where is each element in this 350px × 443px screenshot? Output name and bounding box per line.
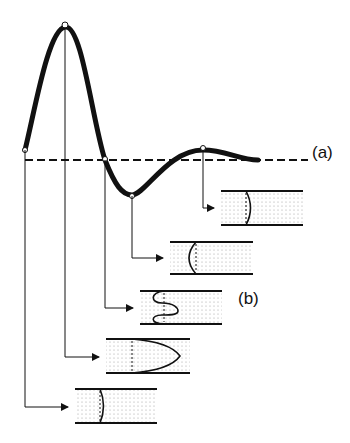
leader-arrow-zero-crossing bbox=[105, 160, 133, 308]
tube-3 bbox=[140, 291, 222, 324]
leader-arrow-start bbox=[25, 150, 68, 407]
oscillation-curve bbox=[25, 27, 258, 195]
tube-5 bbox=[75, 389, 157, 423]
leader-arrow-hump bbox=[203, 150, 214, 208]
hump-point-marker bbox=[201, 146, 206, 151]
tubes-label: (b) bbox=[238, 289, 259, 309]
tube-1 bbox=[221, 191, 303, 225]
leader-arrow-trough bbox=[132, 196, 163, 258]
curve-label: (a) bbox=[312, 143, 333, 163]
tube-2 bbox=[170, 242, 253, 274]
diagram-canvas bbox=[0, 0, 350, 443]
leader-arrow-peak bbox=[65, 27, 99, 357]
tube-4 bbox=[106, 339, 190, 373]
